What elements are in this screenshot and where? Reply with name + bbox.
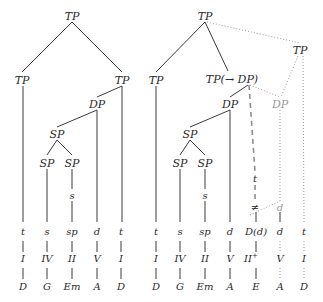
function-label: t [154, 226, 159, 237]
node-root-tp: TP [65, 10, 80, 23]
edge-root-to-left-tp [156, 22, 205, 72]
edge-root-to-upper-right-tp [207, 22, 300, 43]
diagram-canvas: TP TP TP DP SP SP SP s t I D s IV [0, 0, 323, 302]
edge-upper-right-tp-to-dp-right [281, 56, 298, 97]
numeral-label: V [276, 253, 285, 264]
node-sp-upper: SP [50, 128, 66, 141]
edge-tp-to-dp-left [230, 85, 248, 97]
node-sp-left: SP [40, 157, 56, 170]
node-s: s [69, 190, 74, 201]
chord-label: A [92, 281, 100, 292]
function-label: sp [66, 226, 78, 237]
node-s: s [202, 190, 207, 201]
function-label: t [302, 226, 307, 237]
right-tree: TP TP TP TP(→ DP) DP DP SP SP SP s t ≠ d… [149, 10, 308, 292]
edge-sp-to-sp-left [180, 140, 190, 155]
edge-sp-to-sp-right [190, 140, 205, 155]
function-label: t [119, 226, 124, 237]
edge-root-to-tp-arrow-dp [205, 22, 228, 71]
node-dp: DP [88, 98, 106, 111]
node-left-tp: TP [15, 74, 30, 87]
function-label: D(d) [244, 226, 267, 237]
node-not-equal: ≠ [251, 202, 259, 213]
numeral-label: I [118, 253, 124, 264]
edge-sp-to-sp-right [57, 140, 72, 155]
numeral-label: IV [40, 253, 54, 264]
node-root-tp: TP [198, 10, 213, 23]
function-label: s [44, 226, 49, 237]
function-label: s [177, 226, 182, 237]
chord-label: G [176, 281, 184, 292]
edge-tp-movement-trace [249, 85, 255, 172]
edge-dp-left-to-sp [190, 110, 230, 127]
numeral-superscript: + [252, 252, 258, 260]
numeral-label: II [67, 253, 77, 264]
chord-label: Em [196, 281, 214, 292]
chord-label: D [116, 281, 125, 292]
edge-root-to-left-tp [22, 22, 72, 72]
numeral-label: V [226, 253, 235, 264]
node-d: d [277, 202, 283, 213]
numeral-label: I [301, 253, 307, 264]
tree-diagram-figure: TP TP TP DP SP SP SP s t I D s IV [0, 0, 323, 302]
numeral-label: II+ [243, 252, 258, 264]
edge-right-tp-to-dp [97, 86, 122, 97]
node-right-tp: TP [115, 74, 130, 87]
node-dp-left: DP [221, 98, 239, 111]
chord-label: D [18, 281, 27, 292]
right-tree-terminals: t I D s IV G sp II Em d V [151, 226, 308, 292]
chord-label: Em [63, 281, 81, 292]
edge-tp-to-dp-right [250, 85, 280, 97]
edge-sp-to-sp-left [47, 140, 57, 155]
chord-label: D [299, 281, 308, 292]
node-tp-arrow-dp: TP(→ DP) [206, 73, 258, 86]
node-upper-right-tp: TP [293, 44, 308, 57]
function-label: t [21, 226, 26, 237]
left-tree: TP TP TP DP SP SP SP s t I D s IV [15, 10, 130, 292]
node-trace-t: t [253, 173, 258, 184]
numeral-label: II [200, 253, 210, 264]
edge-dp-to-sp [57, 110, 97, 127]
node-left-tp: TP [149, 74, 164, 87]
left-tree-terminals: t I D s IV G sp II Em d V [18, 226, 125, 292]
numeral-label: V [93, 253, 102, 264]
function-label: d [277, 226, 283, 237]
function-label: d [227, 226, 233, 237]
numeral-label: I [20, 253, 26, 264]
node-dp-right: DP [271, 98, 289, 111]
chord-label: D [151, 281, 160, 292]
numeral-label: I [153, 253, 159, 264]
chord-label: E [251, 281, 260, 292]
node-sp-right: SP [198, 157, 214, 170]
edge-upper-right-tp-spine [303, 56, 304, 222]
chord-label: G [43, 281, 51, 292]
function-label: sp [199, 226, 211, 237]
node-sp-left: SP [173, 157, 189, 170]
function-label: d [94, 226, 100, 237]
node-sp-right: SP [65, 157, 81, 170]
right-tree-edges [156, 22, 304, 222]
right-tree-nodes: TP TP TP TP(→ DP) DP DP SP SP SP s t ≠ d [149, 10, 308, 213]
node-sp-upper: SP [183, 128, 199, 141]
edge-root-to-right-tp [72, 22, 122, 72]
numeral-label: IV [173, 253, 187, 264]
chord-label: A [225, 281, 233, 292]
chord-label: A [275, 281, 283, 292]
